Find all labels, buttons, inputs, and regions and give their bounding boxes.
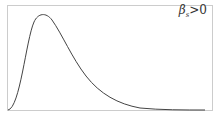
annotation-beta-s-positive: βs>0 bbox=[179, 3, 207, 19]
plot-frame bbox=[8, 6, 213, 111]
density-curve bbox=[8, 15, 205, 110]
